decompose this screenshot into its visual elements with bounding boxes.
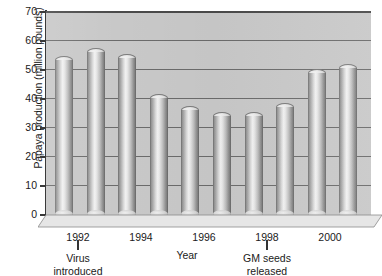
bar-1992: [55, 56, 73, 214]
y-tick-label-50: 50: [0, 64, 37, 75]
y-tick-label-0: 0: [0, 209, 37, 220]
bar-1993: [87, 48, 105, 214]
papaya-production-bar-chart: Papaya production (million pounds) 70 60…: [0, 0, 382, 276]
annotation-virus-line2: introduced: [30, 265, 126, 276]
annotation-gm-line1: GM seeds: [243, 252, 291, 264]
bar-2000: [308, 69, 326, 214]
bar-body-1999: [276, 107, 294, 214]
bar-body-1996: [181, 110, 199, 214]
bar-body-1992: [55, 60, 73, 214]
bar-1997: [213, 112, 231, 214]
x-axis-title: Year: [157, 249, 217, 261]
annotation-tick-icon: [77, 240, 79, 250]
chart-floor-3d: [38, 214, 382, 230]
plot-area: [46, 11, 371, 215]
annotation-tick-icon: [266, 240, 268, 250]
bar-body-1997: [213, 116, 231, 214]
bar-body-1993: [87, 52, 105, 214]
bar-1999: [276, 103, 294, 214]
gridline-60: [46, 40, 371, 41]
bar-1996: [181, 106, 199, 214]
y-tick-label-20: 20: [0, 151, 37, 162]
bar-body-1998: [245, 116, 263, 214]
bar-body-1994: [118, 58, 136, 214]
annotation-virus-line1: Virus: [66, 252, 90, 264]
y-tick-label-10: 10: [0, 180, 37, 191]
y-tick-label-40: 40: [0, 93, 37, 104]
annotation-gm-seeds-released: GM seeds released: [219, 240, 315, 276]
bar-body-1995: [150, 98, 168, 214]
y-tick-label-70: 70: [0, 6, 37, 17]
bar-2001: [339, 64, 357, 214]
bar-1994: [118, 54, 136, 214]
annotation-gm-line2: released: [219, 265, 315, 276]
annotation-virus-introduced: Virus introduced: [30, 240, 126, 276]
bar-body-2001: [339, 68, 357, 214]
y-tick-label-30: 30: [0, 122, 37, 133]
gridline-70: [46, 11, 371, 13]
bar-body-2000: [308, 73, 326, 214]
y-tick-label-60: 60: [0, 35, 37, 46]
bar-1998: [245, 112, 263, 214]
bar-1995: [150, 94, 168, 214]
